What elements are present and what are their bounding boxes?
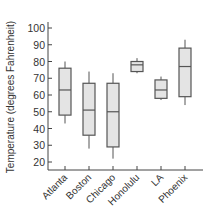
y-tick-label: 50 — [33, 106, 45, 118]
y-tick-label: 100 — [27, 22, 45, 34]
y-tick-label: 60 — [33, 89, 45, 101]
y-tick-label: 80 — [33, 56, 45, 68]
box-series — [59, 40, 191, 159]
y-tick-label: 20 — [33, 156, 45, 168]
box-plot-chart: Temperature (degrees Fahrenheit) 2030405… — [0, 0, 213, 215]
box-phoenix — [179, 40, 191, 105]
x-category-label: LA — [149, 171, 166, 188]
box-honolulu — [131, 58, 143, 73]
box-atlanta — [59, 62, 71, 124]
y-tick-label: 30 — [33, 139, 45, 151]
box-boston — [83, 72, 95, 149]
y-tick-label: 90 — [33, 39, 45, 51]
box-iqr — [59, 68, 71, 115]
y-axis: 2030405060708090100 — [27, 22, 52, 170]
box-iqr — [107, 83, 119, 147]
x-axis: AtlantaBostonChicagoHonoluluLAPhoenix — [40, 166, 203, 207]
y-tick-label: 40 — [33, 123, 45, 135]
box-iqr — [155, 80, 167, 98]
box-chicago — [107, 73, 119, 158]
box-iqr — [83, 83, 95, 135]
y-tick-label: 70 — [33, 72, 45, 84]
y-axis-label: Temperature (degrees Fahrenheit) — [5, 21, 16, 173]
box-la — [155, 77, 167, 100]
box-iqr — [179, 48, 191, 97]
x-category-label: Atlanta — [40, 171, 70, 201]
box-iqr — [131, 62, 143, 72]
